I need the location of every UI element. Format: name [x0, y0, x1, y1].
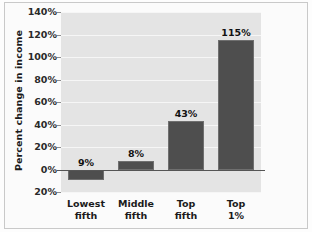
y-tick-mark	[57, 147, 61, 148]
x-tick-label: Top1%	[206, 198, 266, 221]
y-tick-label: 20%	[13, 186, 57, 197]
y-tick-mark	[57, 192, 61, 193]
bar	[68, 170, 104, 180]
bar	[118, 161, 154, 170]
y-tick-label: 40%	[13, 119, 57, 130]
bar	[218, 40, 254, 169]
y-tick-label: 140%	[13, 6, 57, 17]
y-tick-label: 100%	[13, 51, 57, 62]
y-tick-mark	[57, 57, 61, 58]
y-tick-mark	[57, 102, 61, 103]
y-tick-label: 80%	[13, 74, 57, 85]
bar-value-label: 43%	[161, 108, 211, 119]
y-tick-label: 120%	[13, 29, 57, 40]
x-axis-ticks: LowestfifthMiddlefifthTopfifthTop1%	[61, 196, 261, 228]
x-tick-label-line: 1%	[206, 210, 266, 222]
y-tick-mark	[57, 125, 61, 126]
y-tick-label: 60%	[13, 96, 57, 107]
y-tick-mark	[57, 35, 61, 36]
y-tick-mark	[57, 80, 61, 81]
bar	[168, 121, 204, 169]
bar-value-label: 115%	[211, 27, 261, 38]
y-tick-label: 20%	[13, 141, 57, 152]
chart-figure: Percent change in income 9%8%43%115% 140…	[0, 0, 312, 232]
y-tick-mark	[57, 12, 61, 13]
y-tick-label: 0%	[13, 164, 57, 175]
zero-axis-line	[57, 170, 265, 172]
x-tick-label-line: Top	[206, 198, 266, 210]
bar-value-label: 9%	[61, 157, 111, 168]
bar-value-label: 8%	[111, 148, 161, 159]
